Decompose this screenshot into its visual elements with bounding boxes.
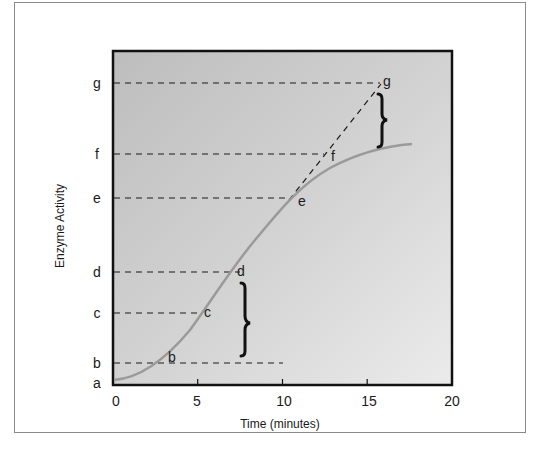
x-tick-label-10: 10 [276,393,292,409]
point-label-e: e [298,193,306,209]
enzyme-activity-chart: g f e d c b a g f e d c b 0 5 10 15 20 T… [0,0,549,455]
y-label-c: c [94,305,101,321]
x-tick-label-15: 15 [361,393,377,409]
point-label-d: d [237,263,245,279]
y-label-d: d [93,264,101,280]
x-axis-title: Time (minutes) [240,417,320,431]
y-label-f: f [95,146,99,162]
point-label-f: f [331,148,335,164]
x-tick-label-0: 0 [112,393,120,409]
x-tick-label-5: 5 [193,393,201,409]
point-label-b: b [168,349,176,365]
y-label-b: b [93,355,101,371]
y-label-a: a [93,375,101,391]
point-label-c: c [204,304,211,320]
x-tick-label-20: 20 [444,393,460,409]
y-label-g: g [93,75,101,91]
y-label-e: e [93,190,101,206]
y-axis-title: Enzyme Activity [53,184,67,268]
plot-area [113,51,452,385]
point-label-g: g [383,73,391,89]
